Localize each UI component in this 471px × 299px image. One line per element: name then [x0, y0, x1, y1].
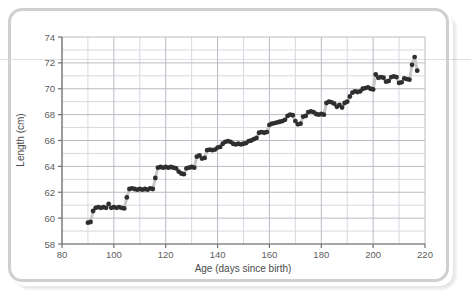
x-tick-label: 100: [106, 249, 122, 260]
data-point: [321, 112, 326, 117]
data-point: [412, 55, 417, 60]
data-point: [394, 75, 399, 80]
x-tick-label: 200: [365, 249, 381, 260]
data-point: [407, 77, 412, 82]
y-tick-labels: 586062646668707274: [44, 32, 55, 250]
data-point: [264, 130, 269, 135]
y-tick-label: 74: [44, 32, 55, 43]
data-point: [181, 172, 186, 177]
series-points-length: [86, 55, 420, 225]
chart-page: 80100120140160180200220 5860626466687072…: [0, 0, 471, 299]
data-point: [415, 68, 420, 73]
data-point: [371, 87, 376, 92]
x-tick-label: 160: [261, 249, 277, 260]
x-tick-label: 140: [210, 249, 226, 260]
growth-chart: 80100120140160180200220 5860626466687072…: [0, 0, 471, 299]
data-point: [150, 187, 155, 192]
y-tick-label: 60: [44, 213, 55, 224]
data-point: [122, 206, 127, 211]
data-point: [345, 99, 350, 104]
x-tick-label: 120: [158, 249, 174, 260]
data-point: [153, 176, 158, 181]
y-tick-label: 70: [44, 83, 55, 94]
y-tick-label: 62: [44, 187, 55, 198]
data-point: [410, 62, 415, 67]
y-tick-label: 64: [44, 161, 55, 172]
data-point: [254, 136, 259, 141]
data-point: [192, 165, 197, 170]
data-point: [340, 105, 345, 110]
y-tick-label: 68: [44, 109, 55, 120]
x-tick-label: 180: [313, 249, 329, 260]
y-axis-title: Length (cm): [15, 113, 26, 166]
y-tick-label: 58: [44, 239, 55, 250]
x-tick-label: 80: [57, 249, 68, 260]
data-point: [124, 195, 129, 200]
y-tick-label: 66: [44, 135, 55, 146]
x-tick-label: 220: [417, 249, 433, 260]
x-tick-labels: 80100120140160180200220: [57, 249, 433, 260]
data-point: [298, 121, 303, 126]
data-point: [88, 220, 93, 225]
data-point: [202, 156, 207, 161]
x-axis-title: Age (days since birth): [195, 263, 292, 274]
y-tick-label: 72: [44, 57, 55, 68]
data-point: [290, 113, 295, 118]
